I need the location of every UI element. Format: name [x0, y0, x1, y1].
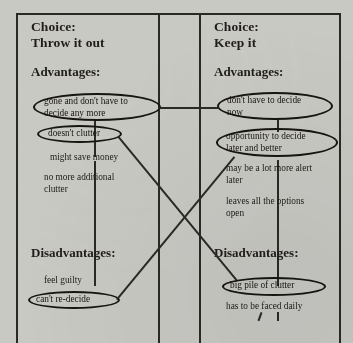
- disadvantages-heading-right: Disadvantages:: [214, 245, 299, 260]
- label-doesnt-clutter: doesn't clutter: [48, 128, 123, 140]
- advantages-heading-left: Advantages:: [31, 64, 100, 79]
- choice-label-left: Choice:: [31, 19, 76, 34]
- column-choice-heading-right: Choice:Keep it: [214, 19, 259, 51]
- item-feel-guilty: feel guilty: [44, 275, 124, 287]
- link-top-advantages: [158, 107, 219, 109]
- advantages-heading-right: Advantages:: [214, 64, 283, 79]
- label-dont-have-to-decide-now: don't have to decide now: [227, 95, 332, 118]
- item-leaves-all-the-options-open: leaves all the options open: [226, 196, 344, 219]
- column-divider-left: [158, 13, 160, 343]
- item-has-to-be-faced-daily: has to be faced daily: [226, 301, 346, 313]
- label-big-pile-of-clutter: big pile of clutter: [230, 280, 326, 292]
- label-opportunity-to-decide-later: opportunity to decide later and better: [226, 131, 338, 154]
- label-gone-and-dont-have-to-decide: gone and don't have to decide any more: [44, 96, 159, 119]
- column-choice-heading-left: Choice:Throw it out: [31, 19, 105, 51]
- disadvantages-heading-left: Disadvantages:: [31, 245, 116, 260]
- label-cant-re-decide: can't re-decide: [36, 294, 120, 306]
- item-may-be-a-lot-more-alert-later: may be a lot more alert later: [226, 163, 346, 186]
- frame-left-edge-extension: [16, 13, 18, 343]
- choice-label-right: Choice:: [214, 19, 259, 34]
- choice-value-left: Throw it out: [31, 35, 105, 50]
- choice-value-right: Keep it: [214, 35, 256, 50]
- diagram-page: Choice:Throw it out Advantages: gone and…: [0, 0, 353, 343]
- item-no-more-additional-clutter: no more additional clutter: [44, 172, 152, 195]
- tick-mark-right: [277, 312, 279, 321]
- column-divider-right: [199, 13, 201, 343]
